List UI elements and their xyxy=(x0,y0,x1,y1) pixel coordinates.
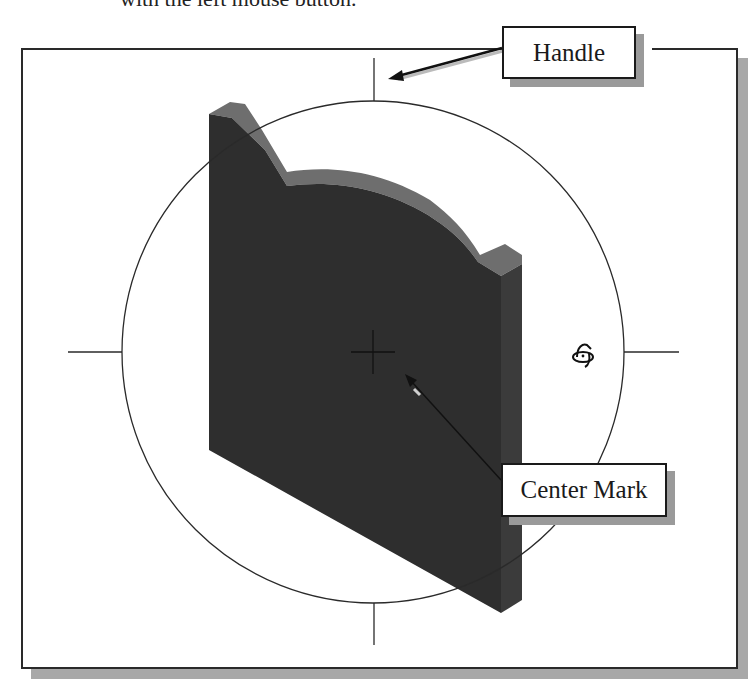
handle-callout-label: Handle xyxy=(502,26,636,79)
3d-part[interactable] xyxy=(209,102,522,613)
part-front-face xyxy=(209,114,501,613)
handle-callout-arrow xyxy=(388,48,503,81)
center-mark-callout-label: Center Mark xyxy=(501,463,667,517)
diagram-canvas xyxy=(0,0,753,699)
rotate-cursor-icon xyxy=(573,345,593,368)
